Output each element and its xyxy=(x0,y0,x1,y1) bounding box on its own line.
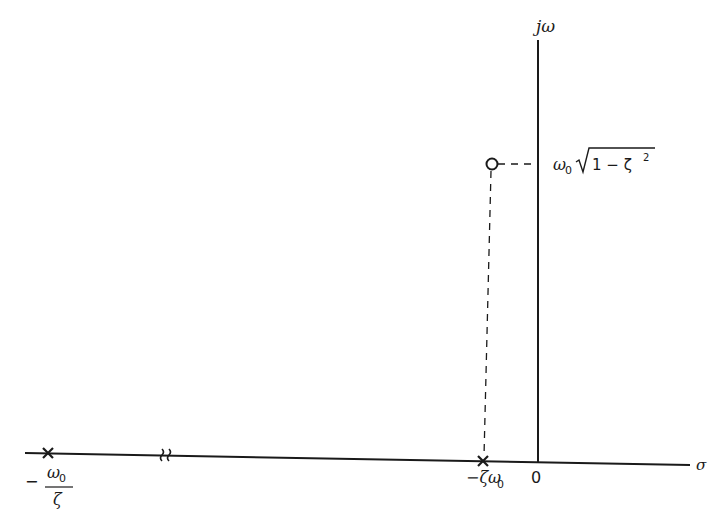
svg-text:−ζω: −ζω xyxy=(466,468,501,487)
svg-text:0: 0 xyxy=(59,472,66,485)
jw-axis-label: jω xyxy=(532,16,555,36)
zero-icon xyxy=(487,159,498,170)
far-pole-label: − ω 0 ζ xyxy=(25,463,73,509)
near-pole-label: −ζω 0 xyxy=(466,468,504,491)
dashed-vertical xyxy=(484,171,491,456)
svg-text:2: 2 xyxy=(643,152,649,163)
svg-text:1 − ζ: 1 − ζ xyxy=(592,156,632,174)
sigma-axis xyxy=(25,453,690,465)
svg-text:−: − xyxy=(25,472,38,491)
zero-label: ω 0 1 − ζ 2 xyxy=(553,148,655,177)
origin-label: 0 xyxy=(531,468,541,487)
svg-text:0: 0 xyxy=(565,164,572,177)
svg-text:ζ: ζ xyxy=(53,490,63,509)
svg-text:0: 0 xyxy=(497,478,504,491)
sigma-axis-label: σ xyxy=(696,456,707,474)
pole-zero-diagram: jω σ 0 −ζω 0 − ω 0 ζ ω 0 1 − ζ 2 xyxy=(0,0,721,527)
